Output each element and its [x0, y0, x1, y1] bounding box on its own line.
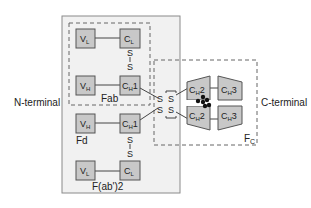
fc-label: FC [244, 133, 255, 145]
disulfide-s: S [127, 149, 133, 159]
antibody-diagram: N-terminal C-terminal Fab Fd F(ab')2 FC … [0, 0, 311, 208]
disulfide-s: S [127, 62, 133, 72]
fab-label: Fab [101, 93, 119, 104]
hinge-s: S [168, 94, 174, 104]
hinge-s: S [168, 105, 174, 115]
fd-label: Fd [76, 135, 88, 146]
disulfide-s: S [127, 48, 133, 58]
fab2-label: F(ab')2 [92, 181, 124, 192]
disulfide-s: S [127, 135, 133, 145]
hinge-s: S [157, 105, 163, 115]
n-terminal-label: N-terminal [14, 97, 60, 108]
c-terminal-label: C-terminal [261, 97, 307, 108]
hinge-s: S [157, 94, 163, 104]
